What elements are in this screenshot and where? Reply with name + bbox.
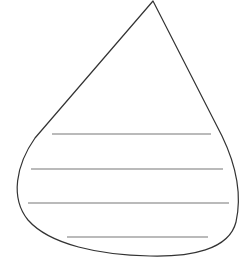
writing-lines	[28, 134, 229, 237]
teardrop-outline	[17, 1, 238, 256]
teardrop-drawing	[0, 0, 250, 280]
teardrop-canvas	[0, 0, 250, 280]
